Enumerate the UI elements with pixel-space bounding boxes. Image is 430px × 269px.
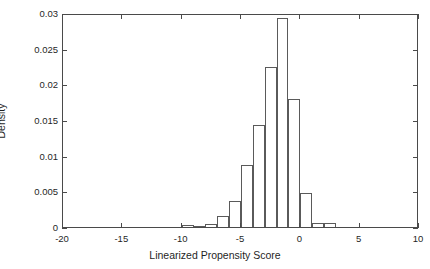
- y-tick-mark: [62, 228, 67, 229]
- y-tick-label: 0.03: [40, 9, 59, 19]
- y-tick-mark: [62, 50, 67, 51]
- y-tick-mark-right: [413, 50, 418, 51]
- x-tick-mark-top: [418, 14, 419, 19]
- x-tick-label: 0: [297, 233, 302, 244]
- histogram-bar: [277, 18, 289, 227]
- histogram-bar: [205, 224, 217, 227]
- histogram-bar: [288, 99, 300, 227]
- x-tick-label: 10: [413, 233, 424, 244]
- y-tick-mark-right: [413, 228, 418, 229]
- y-tick-label: 0.005: [34, 187, 58, 197]
- x-tick-mark: [299, 223, 300, 228]
- x-tick-mark: [359, 223, 360, 228]
- histogram-bar: [265, 67, 277, 228]
- y-tick-mark-right: [413, 85, 418, 86]
- x-tick-mark: [418, 223, 419, 228]
- x-tick-mark: [240, 223, 241, 228]
- x-axis-label: Linearized Propensity Score: [0, 249, 430, 261]
- x-tick-label: -10: [174, 233, 188, 244]
- y-tick-label: 0: [53, 223, 58, 233]
- y-tick-mark: [62, 85, 67, 86]
- x-tick-mark: [62, 223, 63, 228]
- y-axis-label: Density: [0, 103, 7, 138]
- x-tick-label: -15: [114, 233, 128, 244]
- x-tick-mark-top: [359, 14, 360, 19]
- x-tick-mark-top: [62, 14, 63, 19]
- y-tick-label: 0.025: [34, 45, 58, 55]
- x-tick-label: -5: [236, 233, 244, 244]
- x-tick-mark-top: [121, 14, 122, 19]
- y-tick-label: 0.01: [40, 152, 59, 162]
- histogram-bar: [182, 225, 194, 227]
- x-tick-mark: [121, 223, 122, 228]
- histogram-bar: [324, 223, 336, 227]
- x-tick-mark-top: [299, 14, 300, 19]
- histogram-bars: [63, 15, 417, 227]
- plot-area: [62, 14, 418, 228]
- y-tick-label: 0.015: [34, 116, 58, 126]
- y-tick-mark: [62, 157, 67, 158]
- x-tick-label: 5: [356, 233, 361, 244]
- histogram-bar: [241, 165, 253, 227]
- x-tick-mark: [181, 223, 182, 228]
- histogram-figure: 00.0050.010.0150.020.0250.03 -20-15-10-5…: [0, 0, 430, 269]
- histogram-bar: [312, 223, 324, 227]
- x-tick-mark-top: [240, 14, 241, 19]
- histogram-bar: [253, 125, 265, 227]
- x-tick-label: -20: [55, 233, 69, 244]
- y-tick-mark-right: [413, 121, 418, 122]
- y-tick-label: 0.02: [40, 80, 59, 90]
- x-tick-mark-top: [181, 14, 182, 19]
- y-tick-mark-right: [413, 157, 418, 158]
- y-tick-mark-right: [413, 192, 418, 193]
- histogram-bar: [300, 193, 312, 227]
- y-tick-mark: [62, 121, 67, 122]
- histogram-bar: [194, 226, 206, 227]
- histogram-bar: [217, 216, 229, 227]
- y-tick-mark: [62, 192, 67, 193]
